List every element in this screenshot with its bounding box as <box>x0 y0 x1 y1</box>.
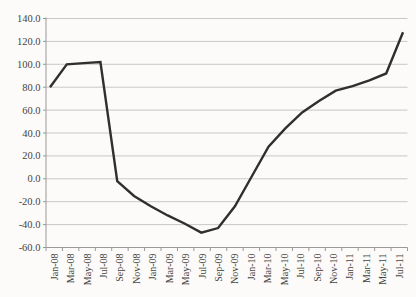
y-axis-tick-label: 120.0 <box>17 36 41 47</box>
x-axis-tick-label: Jul-10 <box>295 254 306 279</box>
x-axis-tick-label: May-08 <box>82 254 93 286</box>
x-axis-tick-label: May-09 <box>180 254 191 286</box>
y-axis-tick-label: 40.0 <box>22 128 40 139</box>
x-axis-tick-label: Jul-11 <box>394 254 405 279</box>
y-axis-tick-label: 60.0 <box>22 105 40 116</box>
data-series-line <box>50 32 403 232</box>
x-axis-tick-label: Jan-11 <box>344 254 355 280</box>
y-axis-tick-label: 20.0 <box>22 150 40 161</box>
x-axis-tick-label: Sep-10 <box>312 254 323 282</box>
x-axis-tick-label: Sep-09 <box>213 254 224 282</box>
y-axis-tick-label: -60.0 <box>19 242 41 253</box>
x-axis-tick-label: Jul-09 <box>197 254 208 279</box>
x-axis-tick-label: Nov-10 <box>328 254 339 285</box>
x-axis-tick-label: Jan-09 <box>147 254 158 281</box>
y-axis-tick-label: 140.0 <box>17 13 41 24</box>
x-axis-tick-label: Mar-11 <box>361 254 372 283</box>
y-axis-tick-label: 80.0 <box>22 82 40 93</box>
x-axis-tick-label: Sep-08 <box>114 254 125 282</box>
x-axis-tick-label: Mar-10 <box>262 254 273 284</box>
x-axis-tick-label: Mar-08 <box>65 254 76 284</box>
x-axis-tick-label: Jan-08 <box>49 254 60 281</box>
x-axis-tick-label: May-10 <box>279 254 290 286</box>
x-axis-tick-label: Mar-09 <box>164 254 175 284</box>
y-axis-tick-label: -20.0 <box>19 196 41 207</box>
y-axis-tick-label: -40.0 <box>19 219 41 230</box>
line-chart: 140.0120.0100.080.060.040.020.00.0-20.0-… <box>0 0 416 297</box>
x-axis-tick-label: Jul-08 <box>98 254 109 279</box>
x-axis-tick-label: Nov-08 <box>131 254 142 285</box>
chart-figure: 140.0120.0100.080.060.040.020.00.0-20.0-… <box>0 0 416 297</box>
y-axis-tick-label: 0.0 <box>27 173 40 184</box>
x-axis-tick-label: May-11 <box>377 254 388 285</box>
y-axis-tick-label: 100.0 <box>17 59 41 70</box>
x-axis-tick-label: Jan-10 <box>246 254 257 281</box>
x-axis-tick-label: Nov-09 <box>229 254 240 285</box>
